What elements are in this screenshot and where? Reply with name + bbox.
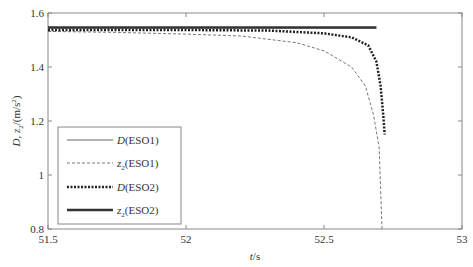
y-tick-label: 0.8: [30, 223, 44, 235]
legend-label-d-eso2: D(ESO2): [116, 181, 159, 194]
y-axis-label: D, z2/(m/s2): [10, 95, 25, 147]
y-tick-label: 1.6: [30, 7, 44, 19]
x-tick-label: 52.5: [314, 233, 334, 245]
x-tick-label: 53: [457, 233, 469, 245]
y-tick-label: 1.4: [30, 61, 44, 73]
y-tick-label: 1.2: [30, 115, 44, 127]
x-tick-label: 52: [181, 233, 192, 245]
x-axis-label: t/s: [250, 250, 260, 262]
y-tick-label: 1: [39, 169, 45, 181]
line-chart: 51.55252.5530.811.21.41.6 D(ESO1) z2(ESO…: [0, 0, 473, 267]
legend-label-d-eso1: D(ESO1): [116, 134, 159, 147]
legend: D(ESO1) z2(ESO1) D(ESO2) z2(ESO2): [58, 127, 181, 224]
